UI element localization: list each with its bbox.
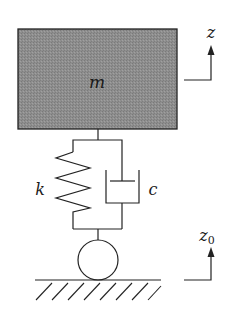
arrow-up-icon xyxy=(208,45,215,55)
z0-label: z0 xyxy=(198,226,214,247)
z0-displacement-arrow: z0 xyxy=(184,226,215,280)
arrow-up-icon xyxy=(208,247,215,257)
mass-block: m xyxy=(18,29,177,129)
ground xyxy=(35,280,161,300)
lower-connector xyxy=(73,229,122,240)
wheel xyxy=(78,240,118,280)
damper-label: c xyxy=(149,180,158,199)
damper: c xyxy=(106,170,158,229)
z-displacement-arrow: z xyxy=(184,23,216,80)
suspension-diagram: m k c z xyxy=(0,0,240,322)
spring: k xyxy=(35,152,90,229)
spring-label: k xyxy=(35,180,45,199)
mass-label: m xyxy=(89,72,105,92)
z-label: z xyxy=(206,23,216,42)
upper-connector xyxy=(73,129,122,181)
